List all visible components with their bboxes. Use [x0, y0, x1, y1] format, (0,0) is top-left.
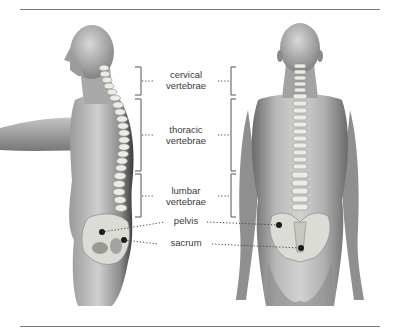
back-view-figure	[236, 23, 364, 306]
lumbar-bracket-right	[231, 174, 236, 217]
pelvis-marker-right	[276, 222, 282, 228]
thoracic-label: thoracic vertebrae	[146, 124, 226, 146]
pelvis-label: pelvis	[146, 215, 226, 226]
thoracic-bracket-right	[231, 99, 236, 171]
lumbar-bracket-left	[135, 174, 141, 217]
thoracic-label-line1: thoracic	[146, 124, 226, 135]
lumbar-label: lumbar vertebrae	[146, 185, 226, 207]
side-view-figure	[0, 25, 134, 306]
thoracic-label-line2: vertebrae	[146, 135, 226, 146]
lumbar-label-line1: lumbar	[146, 185, 226, 196]
thoracic-bracket-left	[135, 99, 141, 171]
cervical-bracket-right	[231, 67, 236, 95]
lumbar-label-line2: vertebrae	[146, 196, 226, 207]
cervical-label-line1: cervical	[146, 69, 226, 80]
cervical-label-line2: vertebrae	[146, 80, 226, 91]
cervical-bracket-left	[135, 67, 141, 95]
cervical-label: cervical vertebrae	[146, 69, 226, 91]
sacrum-label: sacrum	[146, 237, 226, 248]
spine-illustration	[0, 0, 396, 330]
